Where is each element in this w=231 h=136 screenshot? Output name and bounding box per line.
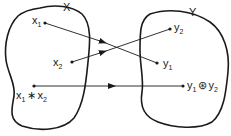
- set-x-boundary: [6, 6, 90, 129]
- set-y-label: Y: [189, 6, 197, 18]
- point-x1: [43, 21, 46, 24]
- point-y2: [168, 27, 171, 30]
- point-x2: [70, 60, 73, 63]
- mapping-diagram: X Y x1 x2 x1∗x2 y2 y1 y1⊛y2: [0, 0, 231, 136]
- label-x2: x2: [53, 56, 63, 70]
- label-x1: x1: [32, 14, 42, 28]
- set-x-label: X: [63, 1, 71, 13]
- label-x-product: x1∗x2: [16, 89, 47, 103]
- label-y1: y1: [163, 57, 173, 71]
- label-y2: y2: [174, 21, 184, 35]
- mapping-x2-to-y2: [72, 29, 170, 62]
- set-y-boundary: [140, 11, 228, 128]
- point-y-product: [181, 84, 184, 87]
- point-x-product: [32, 84, 35, 87]
- point-y1: [155, 61, 158, 64]
- label-y-product: y1⊛y2: [187, 79, 218, 93]
